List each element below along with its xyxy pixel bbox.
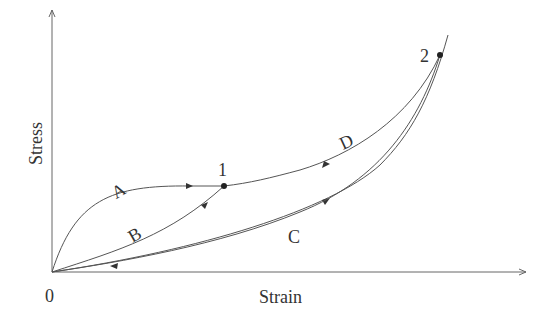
point-2 [437, 52, 443, 58]
x-axis-label: Strain [259, 287, 302, 307]
point-1 [221, 183, 227, 189]
point-2-label: 2 [420, 46, 429, 66]
curve-b-label: B [125, 223, 145, 246]
arrow-b-icon [201, 202, 208, 209]
stress-strain-diagram: 1 2 A B C D 0 Strain Stress [0, 0, 550, 320]
arrow-a-icon [186, 183, 193, 189]
curve-c-label: C [288, 227, 300, 247]
y-axis-label: Stress [26, 122, 46, 165]
curve-a-label: A [108, 179, 129, 203]
origin-label: 0 [45, 286, 54, 306]
curve-d [224, 55, 440, 186]
curve-d-label: D [336, 130, 356, 154]
curve-c-loading [52, 35, 448, 272]
point-1-label: 1 [218, 160, 227, 180]
arrow-c-down-icon [110, 263, 118, 269]
